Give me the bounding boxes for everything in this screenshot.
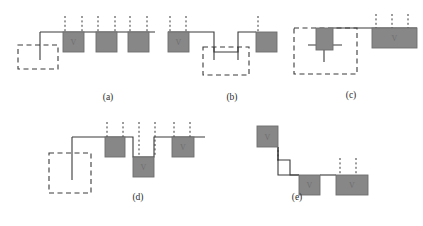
signal-path-e (278, 147, 299, 175)
panel-label-b: (b) (226, 92, 237, 103)
panel-label-a: (a) (103, 92, 114, 103)
panel-e: VVV(e) (257, 126, 368, 203)
block-b-1 (256, 32, 277, 52)
block-mark-a-0: V (71, 38, 77, 47)
block-mark-e-2: V (349, 181, 355, 190)
panel-a: V(a) (18, 16, 155, 103)
stair-path-e (278, 147, 299, 175)
block-d-0 (105, 137, 125, 157)
dashed-region-b (203, 47, 249, 75)
block-mark-c-1: V (392, 34, 398, 43)
panel-c: V(c) (294, 14, 417, 101)
panel-label-d: (d) (132, 192, 143, 203)
block-c-0 (316, 28, 333, 50)
panel-b: V(b) (168, 16, 277, 103)
block-a-1 (96, 32, 117, 52)
dashed-region-a (18, 45, 58, 69)
block-mark-e-0: V (265, 133, 271, 142)
block-a-2 (128, 32, 149, 52)
technical-diagram: V(a)V(b)V(c)VV(d)VVV(e) (0, 0, 423, 226)
dashed-region-d (49, 153, 91, 193)
panel-d: VV(d) (49, 122, 205, 203)
block-mark-d-1: V (141, 163, 147, 172)
block-mark-b-0: V (176, 38, 182, 47)
block-mark-e-1: V (307, 181, 313, 190)
panel-label-c: (c) (346, 90, 357, 101)
block-mark-d-2: V (180, 143, 186, 152)
figure-container: V(a)V(b)V(c)VV(d)VVV(e) (0, 0, 423, 226)
panel-label-e: (e) (292, 192, 303, 203)
